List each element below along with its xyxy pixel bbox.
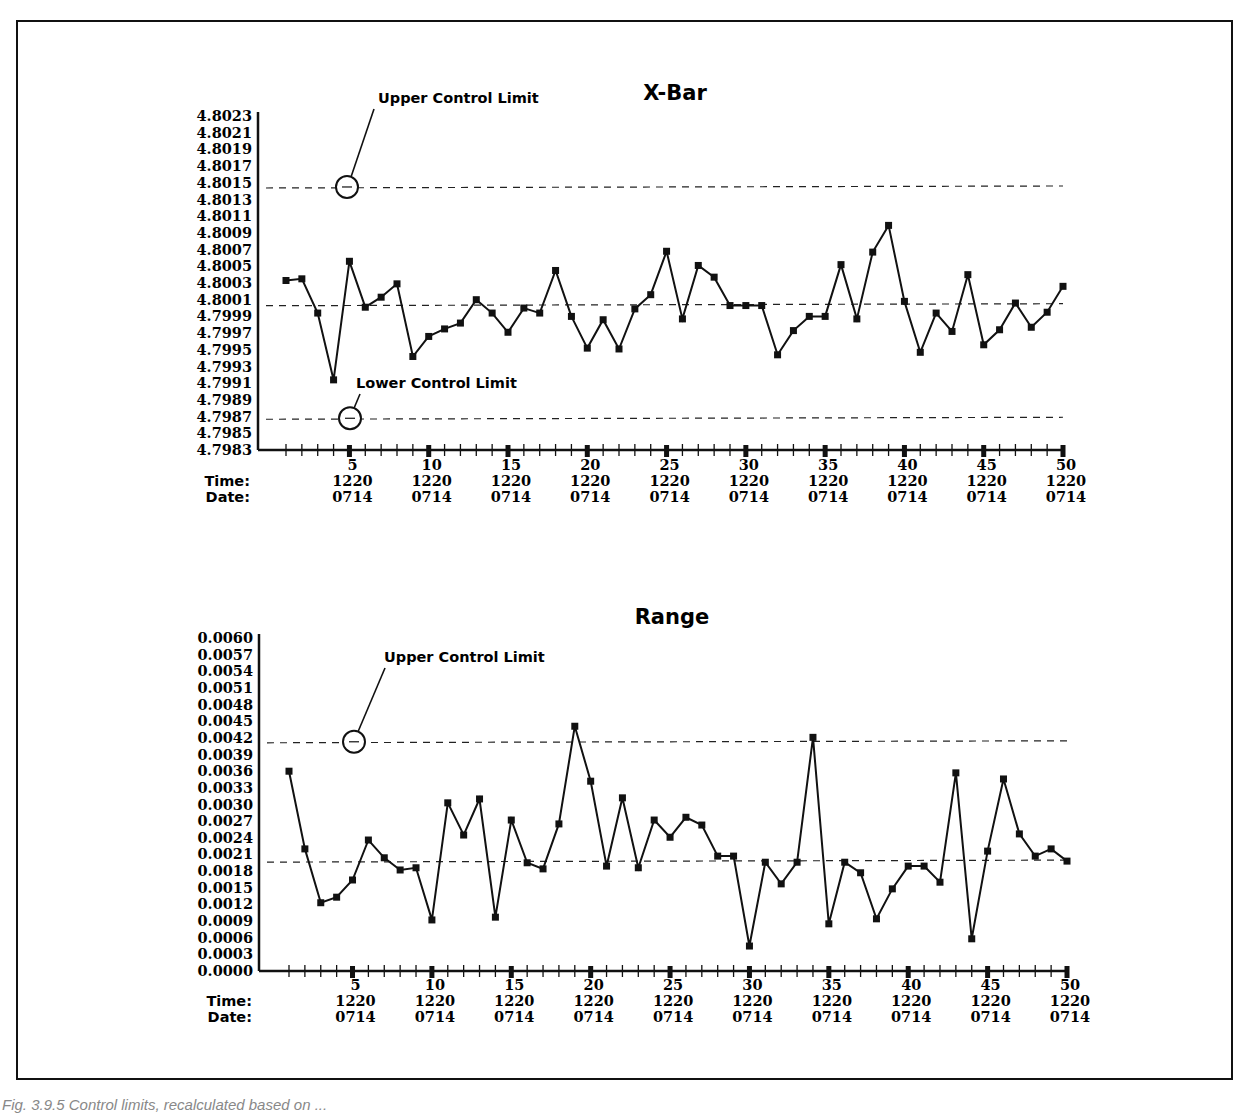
time-value: 1220 bbox=[494, 992, 534, 1009]
time-value: 1220 bbox=[335, 992, 375, 1009]
data-point-marker bbox=[746, 943, 753, 950]
data-point-marker bbox=[317, 899, 324, 906]
time-value: 1220 bbox=[970, 992, 1010, 1009]
data-point-marker bbox=[968, 935, 975, 942]
time-value: 1220 bbox=[573, 992, 613, 1009]
date-value: 0714 bbox=[494, 1008, 534, 1025]
x-tick-label: 30 bbox=[742, 976, 762, 993]
x-tick-label: 10 bbox=[425, 976, 445, 993]
time-value: 1220 bbox=[812, 992, 852, 1009]
data-point-marker bbox=[698, 822, 705, 829]
date-value: 0714 bbox=[732, 1008, 772, 1025]
y-tick-label: 0.0024 bbox=[198, 829, 254, 846]
y-tick-label: 0.0060 bbox=[198, 629, 254, 646]
time-row-label: Time: bbox=[206, 993, 252, 1009]
date-value: 0714 bbox=[653, 1008, 693, 1025]
data-point-marker bbox=[286, 768, 293, 775]
data-point-marker bbox=[905, 863, 912, 870]
data-point-marker bbox=[889, 885, 896, 892]
y-tick-label: 0.0015 bbox=[198, 879, 254, 896]
data-point-marker bbox=[301, 845, 308, 852]
data-point-marker bbox=[936, 879, 943, 886]
date-value: 0714 bbox=[335, 1008, 375, 1025]
date-value: 0714 bbox=[1050, 1008, 1090, 1025]
data-point-marker bbox=[1064, 858, 1071, 865]
y-tick-label: 0.0012 bbox=[198, 895, 254, 912]
y-tick-label: 0.0039 bbox=[198, 746, 254, 763]
y-tick-label: 0.0036 bbox=[198, 762, 254, 779]
annotation-label: Upper Control Limit bbox=[384, 649, 545, 665]
date-row-label: Date: bbox=[208, 1009, 252, 1025]
figure-caption: Fig. 3.9.5 Control limits, recalculated … bbox=[2, 1096, 327, 1113]
y-tick-label: 0.0003 bbox=[198, 945, 254, 962]
x-tick-label: 15 bbox=[504, 976, 524, 993]
data-point-marker bbox=[428, 916, 435, 923]
data-point-marker bbox=[1048, 845, 1055, 852]
y-tick-label: 0.0027 bbox=[198, 812, 254, 829]
y-tick-label: 0.0054 bbox=[198, 662, 254, 679]
data-point-marker bbox=[635, 864, 642, 871]
data-point-marker bbox=[413, 864, 420, 871]
x-tick-label: 50 bbox=[1060, 976, 1080, 993]
data-point-marker bbox=[762, 859, 769, 866]
data-point-marker bbox=[794, 859, 801, 866]
data-point-marker bbox=[714, 853, 721, 860]
data-point-marker bbox=[984, 848, 991, 855]
data-point-marker bbox=[825, 920, 832, 927]
data-point-marker bbox=[460, 832, 467, 839]
data-point-marker bbox=[682, 814, 689, 821]
y-tick-label: 0.0051 bbox=[198, 679, 254, 696]
data-point-marker bbox=[540, 865, 547, 872]
y-tick-label: 0.0009 bbox=[198, 912, 254, 929]
data-point-marker bbox=[444, 799, 451, 806]
time-value: 1220 bbox=[415, 992, 455, 1009]
time-value: 1220 bbox=[1050, 992, 1090, 1009]
data-point-marker bbox=[555, 820, 562, 827]
x-tick-label: 5 bbox=[350, 976, 360, 993]
y-tick-label: 0.0018 bbox=[198, 862, 254, 879]
data-point-marker bbox=[1000, 775, 1007, 782]
date-value: 0714 bbox=[970, 1008, 1010, 1025]
data-point-marker bbox=[921, 863, 928, 870]
data-point-marker bbox=[952, 769, 959, 776]
date-value: 0714 bbox=[415, 1008, 455, 1025]
time-value: 1220 bbox=[732, 992, 772, 1009]
y-tick-label: 0.0045 bbox=[198, 712, 254, 729]
y-tick-label: 0.0042 bbox=[198, 729, 254, 746]
data-point-marker bbox=[587, 778, 594, 785]
data-point-marker bbox=[349, 876, 356, 883]
y-tick-label: 0.0057 bbox=[198, 646, 254, 663]
y-tick-label: 0.0030 bbox=[198, 796, 254, 813]
data-point-marker bbox=[333, 894, 340, 901]
data-point-marker bbox=[524, 859, 531, 866]
time-value: 1220 bbox=[891, 992, 931, 1009]
y-tick-label: 0.0048 bbox=[198, 696, 254, 713]
data-point-marker bbox=[603, 863, 610, 870]
y-tick-label: 0.0021 bbox=[198, 845, 254, 862]
y-tick-label: 0.0033 bbox=[198, 779, 254, 796]
data-point-marker bbox=[492, 914, 499, 921]
data-point-marker bbox=[619, 794, 626, 801]
chart-title: Range bbox=[635, 605, 710, 629]
x-tick-label: 20 bbox=[584, 976, 604, 993]
range-chart: Range0.00600.00570.00540.00510.00480.004… bbox=[0, 0, 1249, 1116]
x-tick-label: 25 bbox=[663, 976, 683, 993]
data-point-marker bbox=[841, 859, 848, 866]
date-value: 0714 bbox=[812, 1008, 852, 1025]
data-series-line bbox=[289, 726, 1067, 946]
data-point-marker bbox=[476, 795, 483, 802]
x-tick-label: 40 bbox=[901, 976, 921, 993]
data-point-marker bbox=[857, 869, 864, 876]
data-point-marker bbox=[571, 723, 578, 730]
data-point-marker bbox=[1032, 853, 1039, 860]
data-point-marker bbox=[873, 915, 880, 922]
data-point-marker bbox=[730, 853, 737, 860]
data-point-marker bbox=[397, 866, 404, 873]
date-value: 0714 bbox=[891, 1008, 931, 1025]
data-point-marker bbox=[651, 817, 658, 824]
data-point-marker bbox=[1016, 830, 1023, 837]
data-point-marker bbox=[365, 837, 372, 844]
time-value: 1220 bbox=[653, 992, 693, 1009]
x-tick-label: 45 bbox=[981, 976, 1001, 993]
data-point-marker bbox=[778, 880, 785, 887]
